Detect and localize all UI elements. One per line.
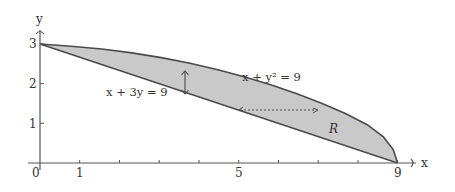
y-axis-label: y <box>35 12 43 26</box>
region-label: R <box>328 122 338 136</box>
x-tick-label-1: 1 <box>76 166 84 180</box>
x-axis-label: x <box>421 156 428 170</box>
origin-label: 0 <box>32 166 40 180</box>
x-tick-label-5: 5 <box>235 166 243 180</box>
y-tick-label-2: 2 <box>29 77 37 91</box>
parabola-equation-label: x + y² = 9 <box>242 70 301 84</box>
line-curve <box>40 44 398 163</box>
region-diagram: 0 1 5 9 1 2 3 x y x + 3y = 9 x + y² = 9 … <box>0 0 455 192</box>
y-tick-label-3: 3 <box>29 37 37 51</box>
line-equation-label: x + 3y = 9 <box>106 85 168 99</box>
x-tick-label-9: 9 <box>394 166 402 180</box>
y-tick-label-1: 1 <box>29 117 37 131</box>
